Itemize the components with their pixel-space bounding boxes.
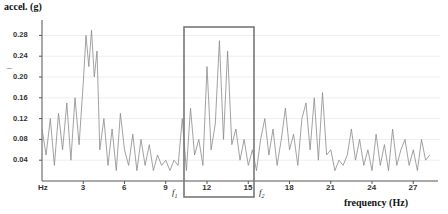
y-tick-label: 0.28	[13, 30, 28, 39]
y-axis-title: accel. (g)	[4, 1, 42, 12]
plot-area	[0, 0, 448, 214]
x-axis-title: frequency (Hz)	[344, 197, 408, 208]
y-tick-label: 0.08	[13, 134, 28, 143]
x-tick-label: 24	[367, 183, 376, 192]
x-tick-label: 3	[81, 183, 85, 192]
x-tick-label: 27	[408, 183, 417, 192]
y-tick-label: 0.12	[13, 114, 28, 123]
y-tick-label: 0.16	[13, 93, 28, 102]
f1-label: f1	[172, 187, 178, 199]
f2-label: f2	[259, 187, 265, 199]
x-tick-label: 21	[326, 183, 335, 192]
x-tick-label: 9	[163, 183, 167, 192]
x-tick-label: 12	[202, 183, 211, 192]
spectrum-line	[42, 30, 430, 170]
x-tick-label: 15	[243, 183, 252, 192]
y-tick-label: 0.24	[13, 51, 28, 60]
y-tick-label: 0.20	[13, 72, 28, 81]
x-tick-label: 18	[285, 183, 294, 192]
x-origin-label: Hz	[38, 183, 48, 192]
stray-dash-mark: –	[7, 62, 12, 72]
x-tick-label: 6	[122, 183, 126, 192]
y-tick-label: 0.04	[13, 155, 28, 164]
